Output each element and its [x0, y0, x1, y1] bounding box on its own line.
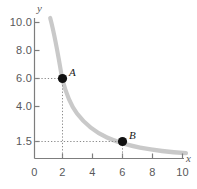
- x-tick-label-6: 6: [110, 166, 135, 178]
- guide-lines-point-b: [35, 142, 123, 159]
- x-tick-label-8: 8: [140, 166, 165, 178]
- y-tick-label-10: 10.0: [0, 16, 32, 28]
- data-point-b[interactable]: [118, 137, 127, 146]
- x-tick-label-4: 4: [80, 166, 105, 178]
- x-axis-ticks: [63, 154, 183, 159]
- y-axis-ticks: [35, 23, 40, 142]
- guide-lines-point-a: [35, 79, 63, 159]
- chart-plot-area: [0, 0, 197, 189]
- data-point-a[interactable]: [58, 74, 67, 83]
- data-point-b-label: B: [129, 129, 136, 141]
- x-axis-name: x: [186, 152, 191, 164]
- x-tick-label-10: 10: [170, 166, 195, 178]
- y-tick-label-4: 4.0: [0, 100, 32, 112]
- y-tick-label-6: 6.0: [0, 72, 32, 84]
- hyperbola-curve: [50, 18, 186, 153]
- chart-container: 10.0 8.0 6.0 4.0 1.5 0 2 4 6 8 10 y x A …: [0, 0, 197, 189]
- y-axis-name: y: [37, 2, 42, 14]
- x-tick-label-2: 2: [50, 166, 75, 178]
- y-tick-label-8: 8.0: [0, 44, 32, 56]
- data-point-a-label: A: [69, 66, 76, 78]
- x-tick-label-0: 0: [22, 166, 47, 178]
- y-tick-label-1-5: 1.5: [0, 135, 32, 147]
